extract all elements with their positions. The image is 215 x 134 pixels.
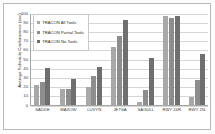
x-tick-label: SADDE (35, 107, 49, 112)
y-tick-label: 100 (21, 11, 28, 15)
legend-label: TRACON All Tools (42, 20, 76, 25)
bar-group (189, 14, 206, 105)
legend-swatch-icon (37, 31, 40, 34)
bar-group (137, 14, 154, 105)
legend-label: TRACON No Tools (42, 39, 77, 44)
bar (71, 79, 76, 105)
y-tick-label: 60 (23, 48, 28, 52)
legend-swatch-icon (37, 21, 40, 24)
bar (86, 87, 91, 104)
legend-item: TRACON Partial Tools (37, 28, 84, 38)
bar-group (111, 14, 128, 105)
y-tick-label: 20 (23, 85, 28, 89)
legend-item: TRACON No Tools (37, 37, 84, 47)
bar (137, 102, 142, 105)
bar (97, 67, 102, 105)
bar (40, 82, 45, 105)
y-tick-label: 50 (23, 57, 28, 61)
y-tick-label: 10 (23, 94, 28, 98)
bar (66, 89, 71, 105)
legend-item: TRACON All Tools (37, 18, 84, 28)
bar (200, 54, 205, 105)
bar-group (163, 14, 180, 105)
y-tick-label: 90 (23, 21, 28, 25)
bar (111, 47, 116, 105)
bar (143, 90, 148, 105)
bar (91, 76, 96, 105)
bar (45, 68, 50, 105)
x-axis-tick-labels: SADDEMAXOWLUVYNJETSASAGULLRWY 24RRWY 25L (30, 107, 208, 119)
bar (189, 97, 194, 104)
x-tick-label: JETSA (114, 107, 127, 112)
bar (163, 16, 168, 104)
y-tick-label: 70 (23, 39, 28, 43)
bar (123, 20, 128, 105)
y-axis-tick-labels: 1009080706050403020100 (14, 14, 28, 106)
bar (117, 36, 122, 105)
bar (169, 18, 174, 104)
x-tick-label: RWY 24R (162, 107, 180, 112)
bar (195, 80, 200, 105)
bar (60, 89, 65, 105)
x-tick-label: SAGULL (138, 107, 155, 112)
x-tick-label: LUVYN (87, 107, 101, 112)
x-tick-label: RWY 25L (189, 107, 207, 112)
legend-swatch-icon (37, 40, 40, 43)
chart-legend: TRACON All ToolsTRACON Partial ToolsTRAC… (33, 14, 89, 51)
bar (149, 58, 154, 105)
legend-label: TRACON Partial Tools (42, 30, 84, 35)
bar (34, 85, 39, 104)
y-tick-label: 40 (23, 67, 28, 71)
y-tick-label: 80 (23, 30, 28, 34)
y-tick-label: 30 (23, 76, 28, 80)
y-tick-label: 0 (26, 103, 28, 107)
bar (175, 16, 180, 104)
chart-figure: Average Schedule Conformance (sec) 10090… (0, 0, 215, 134)
x-tick-label: MAXOW (60, 107, 76, 112)
